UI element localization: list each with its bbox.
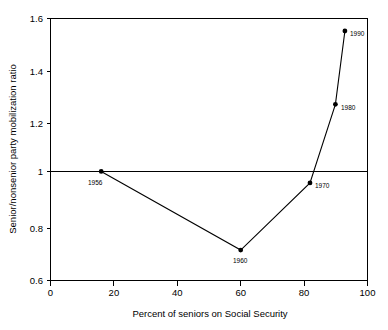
series-line-mobilization-ratio: [101, 31, 345, 250]
marker-1970: [308, 181, 313, 186]
x-tick-label-40: 40: [172, 287, 183, 298]
x-tick-label-20: 20: [109, 287, 120, 298]
marker-1980: [333, 102, 338, 107]
point-label-1990: 1990: [350, 30, 365, 37]
point-label-1956: 1956: [88, 179, 103, 186]
x-tick-label-100: 100: [360, 287, 376, 298]
y-tick-label-1.2: 1.2: [30, 118, 43, 129]
y-axis-title: Senior/nonsenior party mobilization rati…: [7, 64, 18, 234]
line-chart: 1.6 1.4 1.2 1 0.8 0.6 0 20 40 60 80 100 …: [0, 0, 388, 330]
data-point-1960: 1960: [233, 248, 248, 264]
y-tick-label-0.6: 0.6: [30, 275, 43, 286]
y-tick-label-0.8: 0.8: [30, 223, 43, 234]
chart-container: 1.6 1.4 1.2 1 0.8 0.6 0 20 40 60 80 100 …: [0, 0, 388, 330]
data-point-1970: 1970: [308, 181, 330, 190]
y-tick-label-1.4: 1.4: [30, 66, 43, 77]
x-tick-label-0: 0: [48, 287, 53, 298]
data-point-1990: 1990: [343, 29, 365, 37]
x-axis-title: Percent of seniors on Social Security: [132, 308, 287, 319]
data-point-1980: 1980: [333, 102, 356, 111]
point-label-1960: 1960: [233, 257, 248, 264]
marker-1990: [343, 29, 348, 34]
y-tick-label-1: 1: [38, 166, 43, 177]
y-tick-label-1.6: 1.6: [30, 13, 43, 24]
x-tick-label-60: 60: [235, 287, 246, 298]
marker-1956: [99, 169, 104, 174]
point-label-1970: 1970: [315, 182, 330, 189]
marker-1960: [238, 248, 243, 253]
point-label-1980: 1980: [341, 104, 356, 111]
x-tick-label-80: 80: [299, 287, 310, 298]
